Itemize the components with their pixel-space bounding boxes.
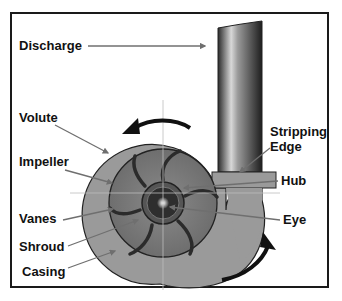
leader-volute: [55, 125, 108, 153]
label-eye: Eye: [283, 213, 306, 227]
discharge-pipe: [218, 21, 262, 172]
label-casing: Casing: [22, 265, 65, 279]
label-stripping-edge-1: Stripping: [270, 125, 327, 139]
label-discharge: Discharge: [19, 39, 82, 53]
label-stripping-edge-2: Edge: [270, 140, 302, 154]
rotation-arrow-top: [135, 121, 190, 129]
label-volute: Volute: [19, 111, 58, 125]
label-hub: Hub: [281, 174, 306, 188]
label-impeller: Impeller: [19, 155, 69, 169]
rotation-arrow-top-head: [122, 118, 140, 134]
label-shroud: Shroud: [19, 240, 65, 254]
label-vanes: Vanes: [19, 212, 57, 226]
